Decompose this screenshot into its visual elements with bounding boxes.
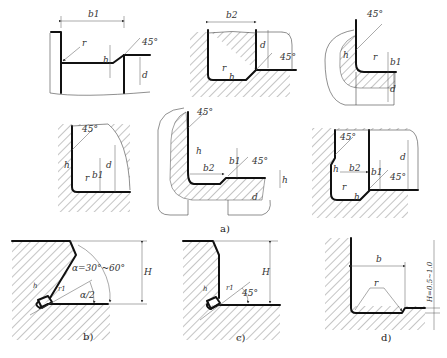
dim-h: h [64,160,70,170]
panel-d: b r H=0.5~1.0 d) [325,238,440,343]
dim-b1: b1 [371,167,383,177]
angle-45: 45° [141,37,158,47]
panel-a5: 45° h b1 b2 45° h d [158,107,288,215]
panel-a2: b2 45° r h d [190,10,296,97]
dim-h: h [333,164,339,174]
radius-r: r [85,173,90,183]
dim-d: d [260,40,266,50]
dim-d: d [400,152,406,162]
dim-d: d [142,70,148,80]
panel-a3: 45° h r b1 d [325,9,402,105]
angle-half-alpha: α/2 [80,290,95,300]
dim-h-right: h [282,175,288,185]
dim-b1: b1 [390,57,402,67]
caption-d: d) [381,332,391,343]
caption-b: b) [83,331,93,342]
radius-r: r [82,38,87,48]
caption-c: c) [236,332,246,343]
angle-45: 45° [81,124,98,134]
dim-H: H [143,267,152,277]
dim-h: h [343,50,349,60]
dim-b1: b1 [88,9,100,19]
angle-45: 45° [279,52,296,62]
caption-a: a) [220,223,230,234]
panel-a1: b1 45° r h d [50,9,158,95]
dim-b1: b1 [229,156,241,166]
dim-H: H [261,267,270,277]
dim-d: d [390,84,396,94]
dim-h: h [229,72,235,82]
angle-45: 45° [366,9,383,19]
dim-h-bottom: h [354,192,360,202]
radius-r: r [374,278,379,288]
dim-b2: b2 [349,163,361,173]
dim-d: d [252,192,258,202]
dim-d: d [106,160,112,170]
panel-c: H 45° h r1 c) [183,241,280,343]
dim-h: h [196,146,202,156]
angle-45: 45° [241,288,258,298]
panel-b: H α=30°~60° α/2 h r1 b) [12,241,152,342]
angle-45-right: 45° [389,172,406,182]
dim-b: b [376,254,382,264]
tool-h: h [33,282,38,290]
dim-H-range: H=0.5~1.0 [426,261,434,303]
angle-45: 45° [196,107,213,117]
tool-r1: r1 [226,284,234,292]
dim-h: h [103,55,109,65]
radius-r: r [222,63,227,73]
tool-r1: r1 [58,285,66,293]
dim-b2: b2 [226,10,238,20]
angle-45-right: 45° [251,156,268,166]
panel-a6: 45° h b2 b1 r h 45° d [312,128,418,218]
dim-b2: b2 [203,163,215,173]
groove-diagram: b1 45° r h d b2 45° r h d 45° h r [0,0,447,358]
panel-a4: 45° h r b1 d [58,124,130,212]
radius-r: r [342,182,347,192]
radius-r: r [373,52,378,62]
angle-alpha: α=30°~60° [72,263,125,273]
tool-h: h [203,285,208,293]
angle-45: 45° [339,132,356,142]
dim-b1: b1 [92,170,104,180]
